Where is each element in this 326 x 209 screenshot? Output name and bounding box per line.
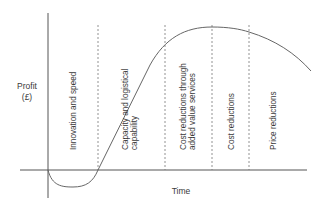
phase-label-innovation: Innovation and speed	[69, 71, 78, 150]
y-axis-label: Profit	[17, 81, 37, 91]
y-axis-label-unit: (£)	[22, 92, 33, 102]
phase-label-price-reductions: Price reductions	[269, 91, 278, 150]
phase-label-capacity: Capacity and logistical	[121, 68, 130, 150]
profit-lifecycle-diagram: Profit (£) Time Innovation and speed Cap…	[0, 0, 326, 209]
phase-label-added-value-line2: added value services	[188, 73, 197, 150]
phase-label-capacity-line2: capability	[130, 115, 139, 150]
x-axis-label: Time	[172, 186, 191, 196]
phase-label-cost-reductions: Cost reductions	[227, 93, 236, 150]
phase-label-added-value: Cost reductions through	[179, 63, 188, 150]
